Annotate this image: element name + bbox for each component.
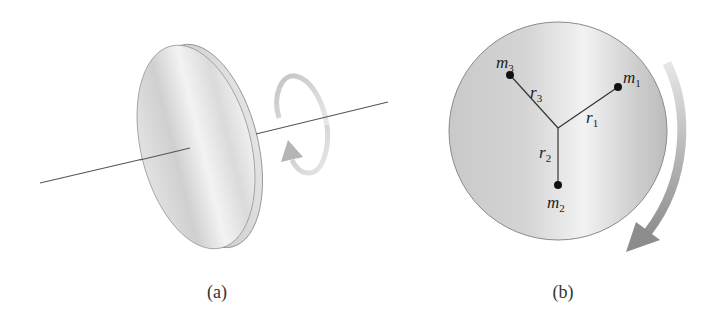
figure: (a) m1 m2 m3 r1 r2 bbox=[0, 0, 721, 322]
panel-a: (a) bbox=[40, 33, 388, 303]
mass-m1-dot bbox=[614, 83, 622, 91]
mass-m2-dot bbox=[554, 181, 562, 189]
disk-a bbox=[117, 33, 281, 261]
caption-a: (a) bbox=[207, 282, 227, 303]
circular-rotation-arrow-head-icon bbox=[281, 125, 328, 173]
panel-b: m1 m2 m3 r1 r2 r3 (b) bbox=[449, 22, 682, 303]
caption-b: (b) bbox=[553, 282, 574, 303]
circular-rotation-arrow-icon bbox=[277, 76, 327, 125]
